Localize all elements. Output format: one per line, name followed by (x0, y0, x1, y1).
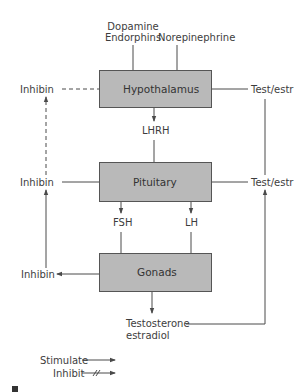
test-estr-top-label: Test/estr (251, 84, 293, 95)
inhibin-top-label: Inhibin (20, 84, 54, 95)
testosterone-label: Testosterone (126, 318, 190, 329)
pituitary-label: Pituitary (133, 176, 177, 188)
hypothalamus-label: Hypothalamus (123, 83, 199, 95)
inhibin-mid-label: Inhibin (20, 177, 54, 188)
test-estr-mid-label: Test/estr (251, 177, 293, 188)
inhibin-bottom-label: Inhibin (21, 269, 55, 280)
caption-marker (12, 386, 18, 392)
legend-inhibit-label: Inhibit (53, 368, 84, 379)
fsh-label: FSH (113, 217, 132, 228)
lhrh-label: LHRH (142, 125, 170, 136)
lh-label: LH (185, 217, 198, 228)
gonads-label: Gonads (137, 266, 177, 278)
estradiol-label: estradiol (126, 330, 170, 341)
legend-stimulate-label: Stimulate (40, 355, 88, 366)
dopamine-label: Dopamine (98, 21, 168, 32)
norepinephrine-label: Norepinephrine (158, 32, 235, 43)
